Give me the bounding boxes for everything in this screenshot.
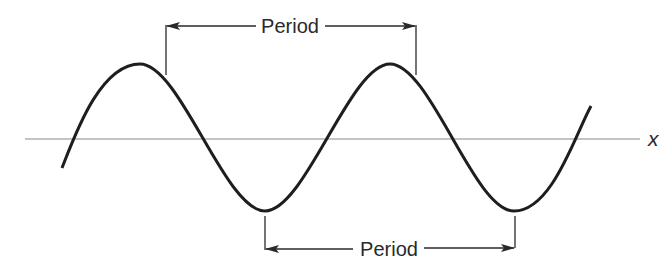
sine-curve: [62, 64, 591, 211]
sine-wave-diagram: x Period Period: [0, 0, 666, 276]
top-period-label: Period: [261, 15, 319, 37]
bottom-period-label: Period: [360, 238, 418, 260]
x-axis-label: x: [647, 127, 660, 150]
